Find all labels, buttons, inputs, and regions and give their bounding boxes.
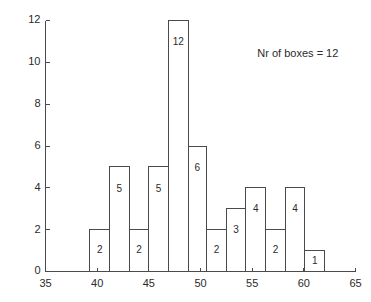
bar-value-label: 5 <box>156 183 162 194</box>
bar-value-label: 4 <box>292 203 298 214</box>
bar-value-label: 2 <box>273 244 279 255</box>
chart-annotations: Nr of boxes = 12 <box>257 47 338 59</box>
bar-value-label: 6 <box>195 162 201 173</box>
x-tick-label: 35 <box>39 277 51 289</box>
y-tick-label: 10 <box>28 55 40 67</box>
x-tick-label: 50 <box>194 277 206 289</box>
y-tick-label: 0 <box>34 264 40 276</box>
y-tick-label: 4 <box>34 181 40 193</box>
bar-value-label: 4 <box>253 203 259 214</box>
bar-value-label: 12 <box>173 36 185 47</box>
bar-value-label: 2 <box>214 244 220 255</box>
bar-value-label: 2 <box>97 244 103 255</box>
histogram-plot-area: 35404550556065 024681012 2525126234241 N… <box>0 0 371 302</box>
x-tick-label: 40 <box>91 277 103 289</box>
annotation-label: Nr of boxes = 12 <box>257 47 338 59</box>
y-tick-label: 8 <box>34 97 40 109</box>
y-tick-label: 2 <box>34 223 40 235</box>
bar-value-label: 3 <box>233 224 239 235</box>
y-tick-label: 12 <box>28 13 40 25</box>
y-tick-label: 6 <box>34 139 40 151</box>
x-tick-label: 55 <box>246 277 258 289</box>
histogram-figure: 35404550556065 024681012 2525126234241 N… <box>0 0 371 302</box>
bar-value-label: 1 <box>312 255 318 266</box>
x-tick-label: 45 <box>143 277 155 289</box>
x-tick-label: 60 <box>298 277 310 289</box>
bar-value-label: 2 <box>136 244 142 255</box>
bar-value-label: 5 <box>117 183 123 194</box>
x-tick-label: 65 <box>349 277 361 289</box>
